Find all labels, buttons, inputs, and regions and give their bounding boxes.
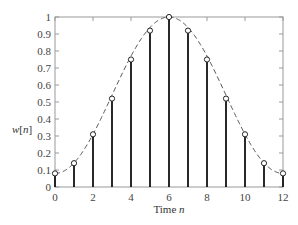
stem-marker — [71, 161, 76, 166]
y-tick-label: 1 — [46, 11, 52, 23]
x-axis-label: Time n — [153, 203, 185, 215]
y-tick-label: 0.4 — [37, 113, 51, 125]
y-tick-label: 0.6 — [37, 79, 51, 91]
stem-marker — [90, 132, 95, 137]
stem-marker — [166, 14, 171, 19]
y-tick-label: 0.2 — [37, 147, 51, 159]
stem-marker — [128, 57, 133, 62]
stem-marker — [147, 28, 152, 33]
x-tick-label: 12 — [278, 191, 289, 203]
x-tick-label: 6 — [166, 191, 172, 203]
stem-marker — [261, 161, 266, 166]
y-tick-label: 0.3 — [37, 130, 51, 142]
stem-marker — [204, 57, 209, 62]
y-tick-label: 0 — [46, 181, 52, 193]
y-tick-label: 0.7 — [37, 62, 51, 74]
x-tick-label: 2 — [90, 191, 96, 203]
stem-marker — [52, 171, 57, 176]
y-tick-label: 0.9 — [37, 28, 51, 40]
y-axis-label: w[n] — [12, 123, 32, 135]
stem-marker — [280, 171, 285, 176]
stem-marker — [242, 132, 247, 137]
y-tick-label: 0.8 — [37, 45, 51, 57]
stem-marker — [185, 28, 190, 33]
y-tick-label: 0.1 — [37, 164, 51, 176]
x-tick-label: 4 — [128, 191, 134, 203]
x-tick-label: 8 — [204, 191, 210, 203]
y-tick-label: 0.5 — [37, 96, 51, 108]
stem-marker — [223, 96, 228, 101]
stem-chart: 00.10.20.30.40.50.60.70.80.91 024681012 … — [0, 0, 298, 225]
x-tick-label: 10 — [240, 191, 252, 203]
x-axis-ticks: 024681012 — [52, 17, 288, 203]
stem-marker — [109, 96, 114, 101]
x-tick-label: 0 — [52, 191, 58, 203]
stem-series — [52, 14, 285, 187]
